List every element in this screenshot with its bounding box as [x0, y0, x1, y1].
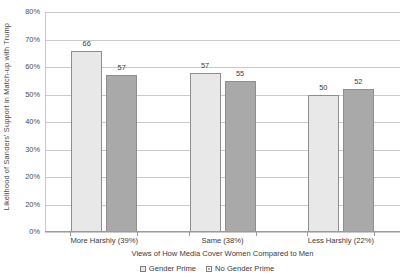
category-label: Less Harshly (22%) [282, 236, 400, 246]
bar-value-label: 57 [106, 64, 137, 72]
bar-value-label: 55 [225, 70, 256, 78]
bar [71, 51, 102, 233]
y-axis-tick-label: 70% [25, 36, 40, 44]
y-axis-tick-label: 20% [25, 201, 40, 209]
bar [308, 95, 339, 233]
legend-label: Gender Prime [149, 265, 196, 273]
legend-item[interactable]: No Gender Prime [206, 265, 274, 273]
legend-swatch-icon [140, 266, 146, 272]
bar [343, 89, 374, 232]
chart-legend: Gender PrimeNo Gender Prime [0, 265, 414, 273]
bar [106, 75, 137, 232]
y-axis-tick-label: 50% [25, 91, 40, 99]
y-axis-title-text: Likelihood of Sanders' Support in Match-… [3, 22, 12, 209]
category-label: More Harshly (39%) [45, 236, 163, 246]
y-axis-tick-label: 20% [25, 173, 40, 181]
category-label: Same (38%) [163, 236, 281, 246]
bar-value-label: 57 [190, 62, 221, 70]
y-axis-title: Likelihood of Sanders' Support in Match-… [0, 0, 14, 232]
x-axis-line [45, 231, 400, 232]
bar [225, 81, 256, 232]
gridline [45, 232, 400, 233]
y-axis-tick-label: 80% [25, 8, 40, 16]
y-axis-tick-label: 40% [25, 118, 40, 126]
bar-value-label: 50 [308, 84, 339, 92]
y-axis-tick-label: 0% [29, 228, 40, 236]
bar [190, 73, 221, 233]
bar-value-label: 66 [71, 40, 102, 48]
legend-swatch-icon [206, 266, 212, 272]
legend-item[interactable]: Gender Prime [140, 265, 196, 273]
y-axis-tick-labels: 0%20%20%30%40%50%60%70%80% [16, 0, 42, 232]
y-axis-tick-label: 60% [25, 63, 40, 71]
legend-label: No Gender Prime [215, 265, 274, 273]
y-axis-tick-label: 30% [25, 146, 40, 154]
bar-value-label: 52 [343, 78, 374, 86]
x-axis-category-labels: More Harshly (39%)Same (38%)Less Harshly… [45, 236, 400, 248]
bar-chart: Likelihood of Sanders' Support in Match-… [0, 0, 414, 278]
bars-layer: 665757555052 [45, 12, 400, 232]
x-axis-title: Views of How Media Cover Women Compared … [45, 249, 400, 259]
plot-area: 665757555052 [45, 12, 400, 232]
